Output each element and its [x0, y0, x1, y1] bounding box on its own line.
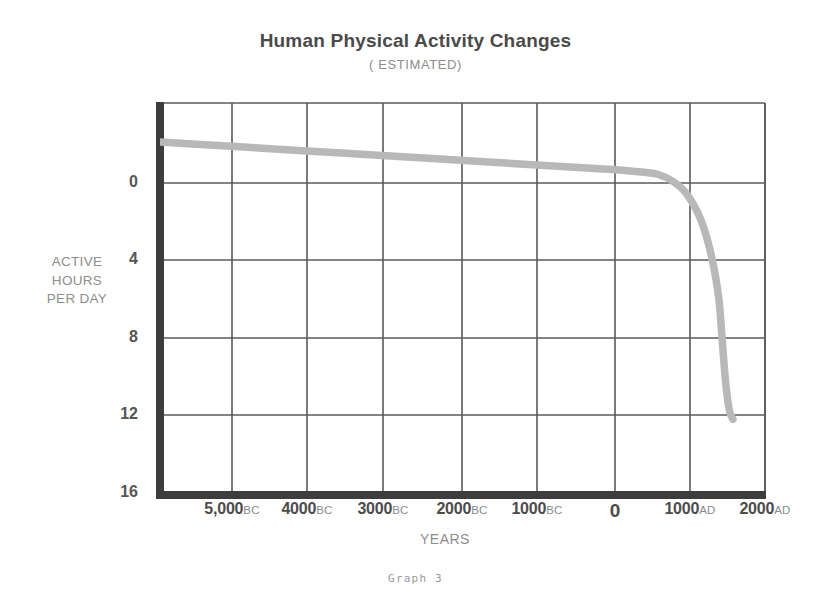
- x-tick-number: 2000: [436, 500, 471, 517]
- x-tick-number: 3000: [357, 500, 392, 517]
- y-axis-title-line-1: ACTIVE: [34, 253, 120, 272]
- y-axis-title-line-3: PER DAY: [34, 290, 120, 309]
- x-tick-label: 2000AD: [705, 500, 825, 518]
- chart-title: Human Physical Activity Changes: [0, 30, 831, 52]
- x-tick-era: AD: [774, 504, 790, 516]
- x-axis-title: YEARS: [0, 531, 831, 547]
- x-tick-number: 1000: [664, 500, 699, 517]
- chart-page: Human Physical Activity Changes ( ESTIMA…: [0, 0, 831, 614]
- y-tick-label: 8: [98, 328, 138, 346]
- y-tick-label: 16: [98, 483, 138, 501]
- chart-subtitle: ( ESTIMATED): [0, 57, 831, 72]
- x-tick-number: 4000: [281, 500, 316, 517]
- y-tick-label: 0: [98, 173, 138, 191]
- y-axis-title: ACTIVE HOURS PER DAY: [34, 253, 120, 309]
- x-tick-number: 5,000: [204, 500, 243, 517]
- x-tick-number: 2000: [739, 500, 774, 517]
- plot-area: [150, 98, 770, 498]
- y-tick-label: 12: [98, 405, 138, 423]
- x-tick-number: 0: [610, 500, 620, 521]
- figure-caption: Graph 3: [0, 572, 831, 585]
- activity-line-chart: [150, 98, 790, 508]
- y-axis-title-line-2: HOURS: [34, 272, 120, 291]
- x-tick-number: 1000: [511, 500, 546, 517]
